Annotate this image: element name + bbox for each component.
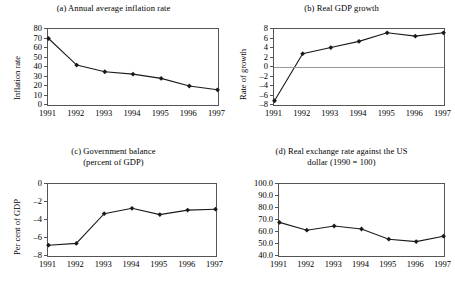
data-point-marker (46, 243, 51, 248)
chart-d-y-tick: 80.0 (258, 202, 273, 212)
chart-b-y-tick: 2 (264, 52, 268, 62)
chart-b-x-tick: 1996 (406, 108, 423, 118)
data-point-marker (359, 227, 364, 232)
chart-a-plot-area (47, 28, 219, 106)
chart-d-x-tick: 1991 (270, 259, 287, 269)
chart-panel-d: (d) Real exchange rate against the US do… (228, 143, 455, 286)
data-point-marker (102, 69, 107, 74)
data-point-marker (215, 87, 220, 92)
chart-a-x-tick: 1991 (39, 108, 56, 118)
chart-c-title: (c) Government balance (percent of GDP) (0, 146, 227, 167)
chart-d-title: (d) Real exchange rate against the US do… (228, 146, 455, 167)
chart-a-y-axis-label: Inflation rate (12, 56, 22, 100)
data-point-marker (414, 239, 419, 244)
chart-a-y-tick: 20 (34, 80, 43, 90)
data-point-marker (441, 234, 446, 239)
chart-a-x-tick: 1997 (208, 108, 225, 118)
chart-a-y-tick: 50 (34, 52, 43, 62)
chart-c-series (48, 184, 216, 256)
chart-b-y-tick: –2 (260, 71, 269, 81)
chart-b-zero-line (274, 67, 444, 68)
chart-a-x-tick: 1993 (95, 108, 112, 118)
data-point-marker (328, 45, 333, 50)
chart-b-y-tick: 8 (264, 23, 268, 33)
chart-d-x-tick: 1995 (379, 259, 396, 269)
chart-d-x-tick: 1992 (297, 259, 314, 269)
chart-a-y-tick: 70 (34, 33, 43, 43)
chart-a-title: (a) Annual average inflation rate (0, 3, 227, 14)
chart-b-y-tick: –6 (260, 90, 269, 100)
chart-a-x-tick: 1996 (180, 108, 197, 118)
chart-d-x-tick: 1997 (434, 259, 451, 269)
chart-c-y-tick: –4 (34, 214, 43, 224)
chart-a-x-tick: 1994 (124, 108, 141, 118)
chart-b-x-tick: 1992 (293, 108, 310, 118)
chart-b-y-tick: 4 (264, 42, 268, 52)
chart-a-y-tick: 60 (34, 42, 43, 52)
data-point-marker (441, 30, 446, 35)
chart-a-y-tick: 80 (34, 23, 43, 33)
chart-c-x-tick: 1996 (178, 259, 195, 269)
chart-d-plot-area (278, 183, 445, 257)
chart-b-y-tick: –4 (260, 80, 269, 90)
chart-a-y-tick: 40 (34, 61, 43, 71)
chart-a-y-tick: 10 (34, 90, 43, 100)
chart-a-series (48, 29, 218, 105)
chart-a-x-tick: 1992 (67, 108, 84, 118)
chart-b-x-tick: 1991 (265, 108, 282, 118)
chart-panel-a: (a) Annual average inflation rate Inflat… (0, 0, 227, 143)
data-point-marker (332, 224, 337, 229)
chart-c-y-tick: –2 (34, 196, 43, 206)
chart-c-x-tick: 1997 (206, 259, 223, 269)
chart-d-y-tick: 60.0 (258, 226, 273, 236)
chart-c-x-tick: 1991 (39, 259, 56, 269)
data-point-marker (157, 212, 162, 217)
data-point-marker (187, 84, 192, 89)
chart-a-y-tick: 30 (34, 71, 43, 81)
chart-c-x-tick: 1992 (67, 259, 84, 269)
data-point-marker (159, 76, 164, 81)
data-point-marker (357, 39, 362, 44)
chart-b-x-tick: 1997 (434, 108, 451, 118)
chart-c-y-tick: 0 (38, 178, 42, 188)
chart-b-y-tick: 6 (264, 33, 268, 43)
data-point-marker (277, 220, 282, 225)
chart-c-y-axis-label: Per cent of GDP (12, 199, 22, 255)
data-point-marker (304, 228, 309, 233)
data-point-marker (413, 34, 418, 39)
chart-b-y-tick: 0 (264, 61, 268, 71)
chart-panel-b: (b) Real GDP growth Rate of growth 86420… (228, 0, 455, 143)
chart-c-plot-area (47, 183, 217, 257)
data-point-marker (131, 72, 136, 77)
data-point-marker (300, 51, 305, 56)
chart-c-x-tick: 1994 (123, 259, 140, 269)
chart-b-x-tick: 1995 (378, 108, 395, 118)
chart-d-y-tick: 70.0 (258, 214, 273, 224)
chart-d-y-tick: 100.0 (254, 178, 273, 188)
chart-d-series (279, 184, 444, 256)
chart-b-title: (b) Real GDP growth (228, 3, 455, 14)
chart-b-y-axis-label: Rate of growth (238, 49, 248, 100)
data-point-marker (213, 207, 218, 212)
chart-c-x-tick: 1993 (95, 259, 112, 269)
figure-panel-grid: (a) Annual average inflation rate Inflat… (0, 0, 455, 286)
chart-d-y-tick: 90.0 (258, 190, 273, 200)
data-point-marker (386, 237, 391, 242)
chart-panel-c: (c) Government balance (percent of GDP) … (0, 143, 227, 286)
chart-b-plot-area (273, 28, 445, 106)
chart-b-x-tick: 1994 (350, 108, 367, 118)
chart-c-y-tick: –6 (34, 232, 43, 242)
chart-c-x-tick: 1995 (150, 259, 167, 269)
chart-d-y-tick: 50.0 (258, 238, 273, 248)
data-point-marker (130, 206, 135, 211)
chart-d-x-tick: 1996 (407, 259, 424, 269)
chart-b-x-tick: 1993 (321, 108, 338, 118)
data-point-marker (385, 30, 390, 35)
chart-a-x-tick: 1995 (152, 108, 169, 118)
chart-d-x-tick: 1994 (352, 259, 369, 269)
data-point-marker (272, 98, 277, 103)
data-point-marker (185, 208, 190, 213)
chart-d-x-tick: 1993 (325, 259, 342, 269)
